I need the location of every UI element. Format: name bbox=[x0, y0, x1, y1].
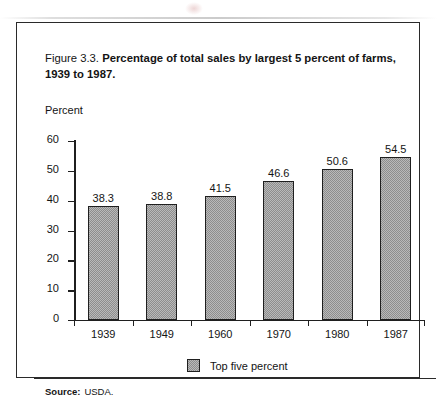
bar: 41.5 bbox=[205, 196, 236, 320]
x-axis-tick bbox=[74, 320, 75, 326]
y-axis-tick-label: 10 bbox=[47, 282, 59, 294]
figure-title-number: Figure 3.3. bbox=[45, 52, 99, 64]
legend-swatch-top-five-percent bbox=[187, 359, 200, 372]
y-axis-tick: 40 bbox=[68, 201, 74, 202]
y-axis-tick-label: 40 bbox=[47, 193, 59, 205]
scan-artifact-line bbox=[0, 17, 437, 19]
y-axis-tick-label: 20 bbox=[47, 252, 59, 264]
bar: 38.3 bbox=[88, 206, 119, 320]
y-axis-tick: 10 bbox=[68, 290, 74, 291]
y-axis-title: Percent bbox=[45, 104, 83, 116]
y-axis-tick-label: 60 bbox=[47, 133, 59, 145]
x-axis-tick bbox=[367, 320, 368, 326]
bar-value-label: 38.8 bbox=[151, 190, 172, 202]
figure-title: Figure 3.3. Percentage of total sales by… bbox=[45, 51, 417, 82]
x-axis-tick bbox=[308, 320, 309, 326]
y-axis-tick-label: 50 bbox=[47, 163, 59, 175]
x-axis-category-label: 1960 bbox=[208, 328, 232, 340]
x-axis-tick bbox=[191, 320, 192, 326]
bar: 46.6 bbox=[263, 181, 294, 320]
scan-artifact-smudge bbox=[185, 2, 203, 15]
x-axis-category-label: 1970 bbox=[267, 328, 291, 340]
bar-value-label: 41.5 bbox=[210, 182, 231, 194]
bar: 50.6 bbox=[322, 169, 353, 320]
x-axis-tick bbox=[250, 320, 251, 326]
plot-area: 010203040506038.3193938.8194941.5196046.… bbox=[74, 141, 425, 320]
y-axis-tick: 30 bbox=[68, 231, 74, 232]
bar: 38.8 bbox=[146, 204, 177, 320]
source-label: Source: bbox=[45, 386, 80, 397]
source-value: USDA. bbox=[84, 386, 113, 397]
y-axis-tick: 60 bbox=[68, 141, 74, 142]
y-axis-tick: 50 bbox=[68, 171, 74, 172]
legend-label-top-five-percent: Top five percent bbox=[210, 360, 288, 372]
bar: 54.5 bbox=[380, 157, 411, 320]
bar-value-label: 54.5 bbox=[385, 143, 406, 155]
source-divider bbox=[34, 378, 436, 379]
x-axis-category-label: 1949 bbox=[150, 328, 174, 340]
y-axis-tick: 20 bbox=[68, 260, 74, 261]
y-axis-tick-label: 30 bbox=[47, 223, 59, 235]
bar-value-label: 46.6 bbox=[268, 167, 289, 179]
x-axis-tick bbox=[424, 320, 425, 326]
x-axis-category-label: 1987 bbox=[384, 328, 408, 340]
x-axis-tick bbox=[133, 320, 134, 326]
y-axis-tick-label: 0 bbox=[53, 312, 59, 324]
source-line: Source:USDA. bbox=[45, 386, 113, 397]
chart-legend: Top five percent bbox=[187, 359, 288, 372]
x-axis-category-label: 1980 bbox=[325, 328, 349, 340]
bar-value-label: 38.3 bbox=[93, 192, 114, 204]
x-axis-category-label: 1939 bbox=[91, 328, 115, 340]
bar-value-label: 50.6 bbox=[327, 155, 348, 167]
figure-frame: Figure 3.3. Percentage of total sales by… bbox=[16, 22, 420, 378]
